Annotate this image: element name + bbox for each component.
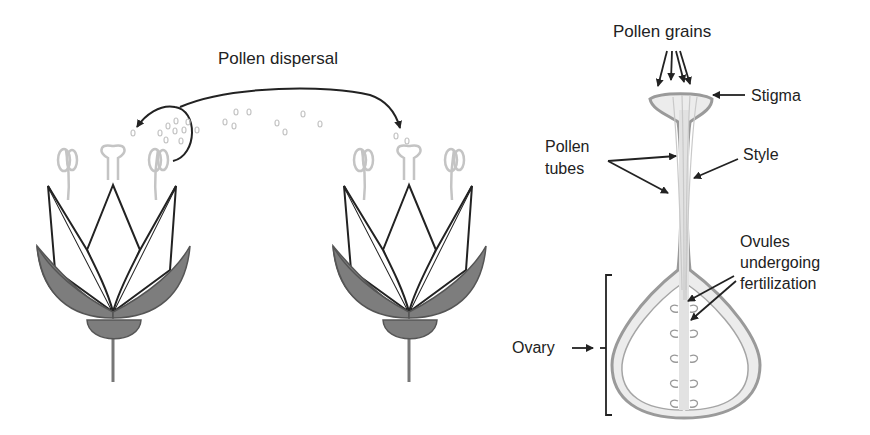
diagram-canvas bbox=[0, 0, 870, 435]
stigma-label: Stigma bbox=[751, 86, 801, 105]
ovules-label-line1: Ovules bbox=[740, 232, 790, 251]
pollen-tubes-label-line2: tubes bbox=[545, 159, 584, 178]
pollen-tubes-label-line1: Pollen bbox=[545, 137, 589, 156]
ovules-label-line2: undergoing bbox=[740, 253, 820, 272]
receiving-flower bbox=[333, 146, 486, 383]
ovary-label: Ovary bbox=[512, 338, 555, 357]
style-label: Style bbox=[743, 145, 779, 164]
pistil-section bbox=[612, 94, 760, 418]
pollen-dispersal-title: Pollen dispersal bbox=[218, 49, 338, 68]
pollen-grains-label: Pollen grains bbox=[613, 22, 711, 41]
ovules-label-line3: fertilization bbox=[740, 274, 816, 293]
source-flower bbox=[37, 146, 190, 383]
pollen-grains-cloud bbox=[131, 109, 409, 144]
